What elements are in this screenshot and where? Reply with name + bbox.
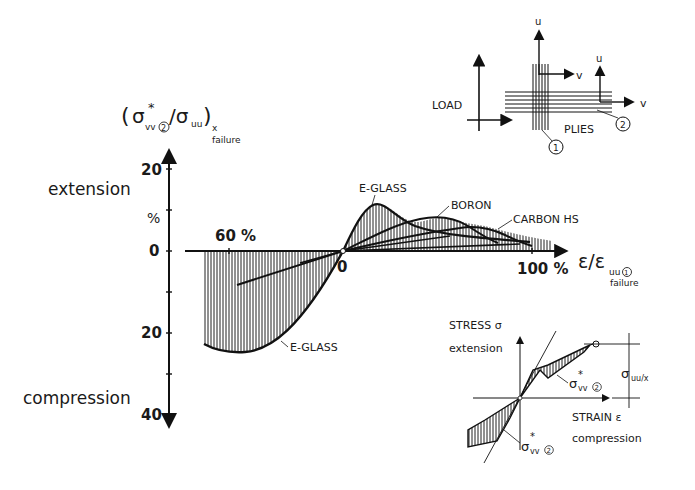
origin-marker (341, 249, 346, 254)
y-tick-label: 0 (149, 242, 159, 260)
leader-line (542, 130, 553, 142)
u-label: u (596, 53, 602, 64)
u-label: u (535, 16, 541, 27)
ply-2-label: 2 (620, 120, 626, 130)
stress-axis-label: STRESS σ (449, 319, 502, 332)
svg-text:ε/ε: ε/ε (578, 250, 605, 272)
svg-text:/σ: /σ (169, 104, 189, 128)
compression-shaded-area (204, 251, 343, 352)
extension-label: extension (449, 342, 503, 355)
svg-text:uu: uu (609, 267, 620, 277)
sigma-vv-lower-label: σ (521, 439, 529, 454)
stress-strain-inset: STRESS σ extension STRAIN ε compression … (449, 319, 649, 463)
x-tick-label: 60 % (215, 227, 256, 245)
v-label: v (576, 69, 583, 82)
series-label-e-glass-compression: E-GLASS (290, 341, 338, 354)
y-tick-label: 20 (141, 324, 162, 342)
extension-region-label: extension (48, 179, 131, 199)
y-unit-label: % (147, 210, 160, 226)
svg-text:*: * (578, 369, 583, 380)
diagram-canvas: 20 0 20 40 % extension compression 60 % … (0, 0, 695, 490)
leader-line (597, 110, 618, 118)
svg-text:vv: vv (530, 447, 540, 456)
svg-text:σ: σ (132, 104, 145, 128)
svg-text:2: 2 (547, 447, 551, 455)
load-plies-inset: LOAD u v u v PLIES 1 (432, 16, 647, 154)
svg-text:uu: uu (191, 119, 202, 129)
v-label: v (640, 97, 647, 110)
x-tick-label: 100 % (517, 260, 569, 278)
sigma-uux-sub: uu/x (631, 374, 649, 383)
y-tick-label: 20 (141, 161, 162, 179)
svg-text:*: * (148, 100, 155, 115)
lower-shaded-area (468, 398, 520, 447)
svg-text:failure: failure (610, 278, 639, 288)
plies-label: PLIES (564, 123, 594, 136)
svg-text:): ) (203, 103, 212, 128)
origin-marker (518, 396, 522, 400)
sigma-vv-upper-label: σ (569, 376, 577, 391)
leader-line (437, 206, 449, 217)
series-label-carbon-hs: CARBON HS (513, 213, 579, 226)
leader-line (557, 375, 568, 383)
ply-1-label: 1 (553, 143, 559, 153)
svg-text:*: * (530, 431, 535, 442)
svg-text:failure: failure (212, 135, 241, 145)
x-axis-title: ε/ε uu 1 failure (578, 250, 639, 288)
svg-text:x: x (212, 123, 218, 133)
series-label-boron: BORON (451, 199, 492, 212)
load-label: LOAD (432, 99, 462, 112)
strain-axis-label: STRAIN ε (572, 411, 621, 424)
svg-text:1: 1 (624, 269, 628, 277)
series-label-e-glass: E-GLASS (359, 182, 407, 195)
leader-line (504, 430, 520, 443)
compression-label: compression (572, 432, 642, 445)
svg-text:vv: vv (578, 384, 588, 393)
leader-line (281, 341, 288, 347)
y-axis-title: ( σ * vv 2 /σ uu ) x failure (121, 100, 241, 145)
svg-text:(: ( (121, 103, 130, 128)
svg-text:vv: vv (145, 122, 156, 132)
leader-line (498, 220, 512, 229)
sigma-uux-label: σ (621, 366, 629, 381)
x-tick-label: 0 (337, 258, 347, 276)
svg-text:2: 2 (161, 124, 166, 133)
y-tick-label: 40 (141, 406, 162, 424)
svg-text:2: 2 (595, 384, 599, 392)
ply-2-fibers (505, 92, 612, 112)
compression-region-label: compression (23, 388, 131, 408)
